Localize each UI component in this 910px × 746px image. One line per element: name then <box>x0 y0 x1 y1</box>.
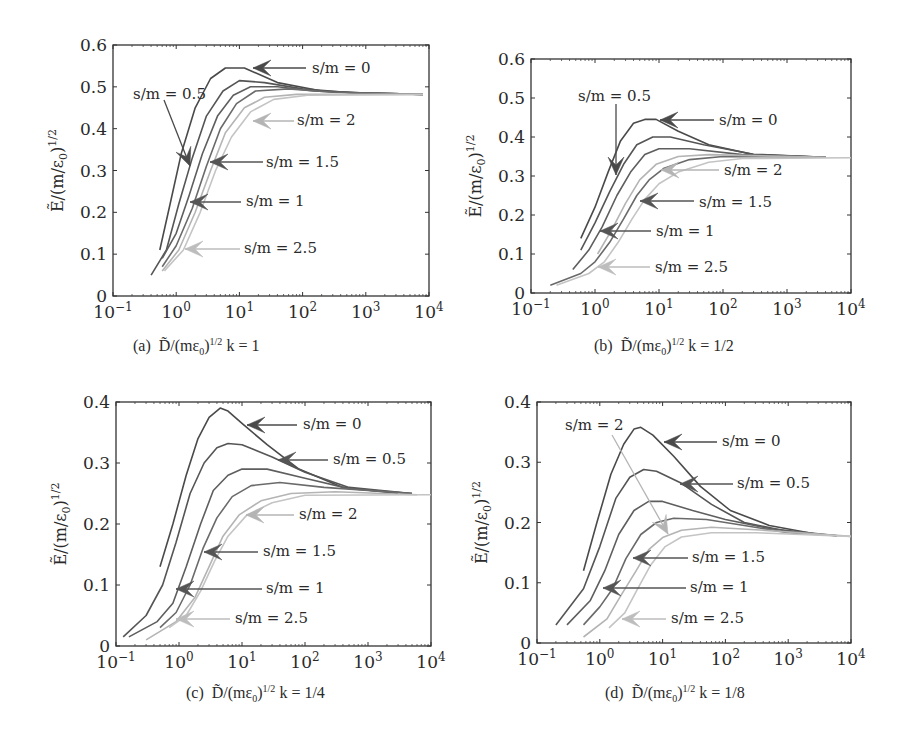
x-tick-label: 103 <box>774 647 803 669</box>
y-axis-label: Ẽ/(m/ε0)1/2 <box>464 134 488 217</box>
caption-k: k = 1 <box>226 337 259 354</box>
y-tick-label: 0.5 <box>80 77 107 97</box>
series-annotation-label: s/m = 0.5 <box>333 450 406 468</box>
series-annotation-label: s/m = 0 <box>312 59 371 77</box>
annotation-arrow: s/m = 0.5 <box>578 87 651 175</box>
caption-k: k = 1/8 <box>699 684 744 701</box>
x-tick-label: 102 <box>290 650 319 672</box>
x-tick-label: 103 <box>351 300 380 322</box>
x-tick-label: 100 <box>580 297 609 319</box>
annotation-arrow: s/m = 0 <box>660 111 778 129</box>
y-tick-label: 0.3 <box>498 166 525 186</box>
annotation-arrow: s/m = 2.5 <box>622 609 744 627</box>
annotation-arrow: s/m = 1 <box>600 222 715 240</box>
y-tick-label: 0.2 <box>498 205 525 225</box>
y-tick-label: 0.3 <box>504 452 531 472</box>
annotation-arrow: s/m = 1.5 <box>210 153 339 171</box>
arrowhead-icon <box>652 514 668 534</box>
annotation-arrow: s/m = 0.5 <box>133 85 206 166</box>
series-line <box>581 119 826 238</box>
series-annotation-label: s/m = 1.5 <box>263 542 336 560</box>
series-annotation-label: s/m = 1 <box>246 192 305 210</box>
annotation-arrow: s/m = 0 <box>247 415 362 433</box>
series-annotation-label: s/m = 0.5 <box>737 474 810 492</box>
x-tick-label: 101 <box>644 297 673 319</box>
caption-panel-d: (d) D̃/(mε0)1/2 k = 1/8 <box>605 683 745 705</box>
y-tick-label: 0.6 <box>498 49 525 69</box>
chart-panel-d: 00.10.20.30.410−1100101102103104Ẽ/(m/ε0)… <box>470 392 866 669</box>
x-tick-label: 100 <box>162 300 191 322</box>
y-tick-label: 0.4 <box>80 119 107 139</box>
series-annotation-label: s/m = 1.5 <box>266 153 339 171</box>
series-annotation-label: s/m = 0 <box>719 111 778 129</box>
y-tick-label: 0.2 <box>83 514 110 534</box>
series-annotation-label: s/m = 0.5 <box>578 87 651 105</box>
annotation-arrow: s/m = 2 <box>246 505 358 523</box>
series-annotation-label: s/m = 0.5 <box>133 85 206 103</box>
caption-prefix: (c) <box>186 684 204 701</box>
chart-panel-a: 00.10.20.30.40.50.610−1100101102103104Ẽ/… <box>46 35 444 322</box>
x-tick-label: 101 <box>225 300 254 322</box>
caption-prefix: (d) <box>605 684 624 701</box>
y-tick-label: 0.4 <box>83 392 110 412</box>
annotation-arrow: s/m = 1.5 <box>640 193 772 211</box>
annotation-arrow: s/m = 0.5 <box>680 474 810 492</box>
series-line <box>123 444 412 637</box>
x-tick-label: 10−1 <box>96 650 135 672</box>
caption-xlabel: D̃/(mε0)1/2 <box>632 684 696 701</box>
x-tick-label: 103 <box>772 297 801 319</box>
y-tick-label: 0.3 <box>80 161 107 181</box>
annotation-arrow: s/m = 0.5 <box>278 450 406 468</box>
y-tick-label: 0.6 <box>80 35 107 55</box>
annotation-arrow: s/m = 1 <box>190 192 305 210</box>
series-annotation-label: s/m = 1 <box>656 222 715 240</box>
caption-xlabel: D̃/(mε0)1/2 <box>212 684 276 701</box>
annotation-arrow: s/m = 0 <box>664 432 781 450</box>
x-tick-label: 103 <box>353 650 382 672</box>
annotation-arrow: s/m = 2 <box>253 111 356 129</box>
series-annotation-label: s/m = 2 <box>297 111 356 129</box>
caption-panel-a: (a) D̃/(mε0)1/2 k = 1 <box>133 336 259 358</box>
series-annotation-label: s/m = 1.5 <box>699 193 772 211</box>
series-annotation-label: s/m = 1 <box>266 579 325 597</box>
caption-xlabel: D̃/(mε0)1/2 <box>159 337 223 354</box>
y-tick-label: 0.3 <box>83 453 110 473</box>
y-tick-label: 0.1 <box>504 573 531 593</box>
x-tick-label: 104 <box>836 297 866 319</box>
annotation-arrow: s/m = 0 <box>253 59 371 77</box>
x-tick-label: 104 <box>836 647 866 669</box>
series-annotation-label: s/m = 2 <box>299 505 358 523</box>
annotation-arrow: s/m = 1 <box>603 578 749 596</box>
figure-canvas: 00.10.20.30.40.50.610−1100101102103104Ẽ/… <box>0 0 910 746</box>
series-annotation-label: s/m = 0 <box>303 415 362 433</box>
caption-prefix: (b) <box>594 337 613 354</box>
y-tick-label: 0.5 <box>498 88 525 108</box>
caption-panel-c: (c) D̃/(mε0)1/2 k = 1/4 <box>186 683 325 705</box>
annotation-arrow: s/m = 2.5 <box>176 609 308 627</box>
y-tick-label: 0.4 <box>504 392 531 412</box>
x-tick-label: 104 <box>416 650 446 672</box>
x-tick-label: 10−1 <box>93 300 132 322</box>
x-tick-label: 102 <box>711 647 740 669</box>
x-tick-label: 102 <box>708 297 737 319</box>
series-annotation-label: s/m = 2.5 <box>671 609 744 627</box>
series-annotation-label: s/m = 0 <box>722 432 781 450</box>
series-annotation-label: s/m = 1 <box>690 578 749 596</box>
x-tick-label: 100 <box>164 650 193 672</box>
y-tick-label: 0.4 <box>498 127 525 147</box>
x-tick-label: 102 <box>288 300 317 322</box>
x-tick-label: 101 <box>227 650 256 672</box>
x-tick-label: 104 <box>414 300 444 322</box>
caption-prefix: (a) <box>133 337 151 354</box>
series-annotation-label: s/m = 2.5 <box>235 609 308 627</box>
y-tick-label: 0.1 <box>498 244 525 264</box>
y-tick-label: 0.2 <box>504 513 531 533</box>
series-line <box>162 87 423 259</box>
caption-panel-b: (b) D̃/(mε0)1/2 k = 1/2 <box>594 336 734 358</box>
y-axis-label: Ẽ/(m/ε0)1/2 <box>46 129 70 212</box>
annotation-arrow: s/m = 2 <box>565 416 668 534</box>
chart-panel-b: 00.10.20.30.40.50.610−1100101102103104Ẽ/… <box>464 49 866 319</box>
series-annotation-label: s/m = 2.5 <box>244 239 317 257</box>
y-tick-label: 0.1 <box>80 244 107 264</box>
series-annotation-label: s/m = 1.5 <box>692 548 765 566</box>
